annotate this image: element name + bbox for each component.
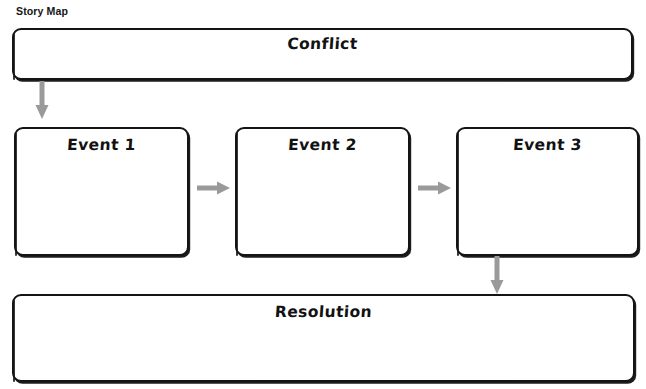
connector-event-3-to-resolution-icon (489, 256, 505, 296)
node-resolution[interactable]: Resolution (12, 294, 635, 382)
story-map-canvas: · · · Story Map Conflict Event 1 Event 2 (0, 0, 646, 389)
node-event-3-label: Event 3 (457, 136, 637, 154)
clipped-text-remnant: · · · (0, 0, 646, 6)
node-event-1[interactable]: Event 1 (14, 127, 189, 256)
node-resolution-label: Resolution (13, 303, 633, 321)
node-conflict[interactable]: Conflict (12, 28, 633, 80)
connector-event-1-to-event-2-icon (197, 180, 231, 196)
node-event-3[interactable]: Event 3 (456, 127, 639, 256)
page-title: Story Map (16, 5, 68, 17)
node-event-2[interactable]: Event 2 (235, 127, 410, 256)
connector-conflict-to-event-1-icon (34, 81, 50, 121)
node-conflict-label: Conflict (13, 35, 631, 53)
connector-event-2-to-event-3-icon (418, 180, 452, 196)
node-event-2-label: Event 2 (236, 136, 408, 154)
node-event-1-label: Event 1 (15, 136, 187, 154)
